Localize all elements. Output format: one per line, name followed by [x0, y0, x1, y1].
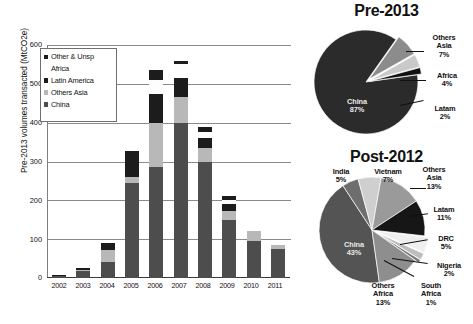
pie-post2012-label-india: India 5% [323, 168, 359, 185]
legend-swatch-icon-others-asia [44, 90, 48, 94]
bar-segment-2002-latin-america [52, 275, 66, 276]
y-tick-0: 0 [38, 274, 42, 282]
bar-segment-2008-china [198, 162, 212, 279]
bar-segment-2011-china [271, 249, 285, 278]
pie-post2012-label-china: China 43% [334, 241, 374, 258]
x-tick-2004: 2004 [94, 281, 120, 290]
legend-swatch-icon-latin-america [44, 78, 48, 82]
legend-label-latin-america: Latin America [51, 76, 94, 85]
legend-item-africa: Africa [44, 64, 114, 74]
bar-segment-2005-china [125, 183, 139, 278]
bar-segment-2010-others-asia [247, 231, 261, 241]
bar-segment-2009-other-unsp [222, 196, 236, 200]
x-tick-2008: 2008 [190, 281, 216, 290]
bar-segment-2007-china [174, 123, 188, 278]
y-tick-100: 100 [30, 236, 42, 244]
bar-segment-2011-others-asia [271, 245, 285, 249]
pie-pre2013-leader-africa [400, 80, 426, 81]
bar-segment-2008-africa [198, 132, 212, 138]
pie-post2012-label-south-africa: South Africa 1% [411, 282, 451, 307]
bar-segment-2010-china [247, 241, 261, 278]
bar-segment-2006-others-asia [149, 123, 163, 168]
bar-segment-2005-latin-america [125, 151, 139, 177]
legend-label-other-unsp: Other & Unsp [51, 52, 94, 61]
pie-pre2013-label-africa: Africa 4% [426, 72, 468, 89]
legend-item-other-unsp: Other & Unsp [44, 52, 114, 62]
bar-segment-2007-africa [174, 64, 188, 78]
x-axis-ticks: 2002 2003 2004 2005 2006 2007 2008 2009 … [47, 281, 290, 295]
bar-segment-2007-others-asia [174, 97, 188, 122]
pie-pre2013-label-others-asia: Others Asia 7% [422, 34, 466, 59]
pie-pre2013-leader-others-asia [406, 51, 424, 52]
pie-post2012-label-vietnam: Vietnam 7% [366, 168, 410, 185]
bar-segment-2004-latin-america [101, 243, 115, 250]
pie-title-post2012: Post-2012 [300, 148, 473, 166]
legend-item-china: China [44, 100, 114, 110]
bar-segment-2005-others-asia [125, 177, 139, 183]
x-tick-2005: 2005 [118, 281, 144, 290]
bar-segment-2008-other-unsp [198, 127, 212, 133]
x-tick-2002: 2002 [46, 281, 72, 290]
bar-segment-2007-other-unsp [174, 61, 188, 65]
y-tick-300: 300 [30, 158, 42, 166]
bar-segment-2009-latin-america [222, 204, 236, 211]
bar-segment-2008-latin-america [198, 138, 212, 148]
legend-swatch-icon-africa [44, 66, 48, 70]
pie-post2012-label-latam: Latam 11% [424, 206, 464, 223]
legend-label-others-asia: Others Asia [51, 88, 88, 97]
pie-title-pre2013: Pre-2013 [300, 2, 473, 20]
pie-chart-post2012-panel: Post-2012 China 43% India 5% Vietnam 7% … [300, 148, 473, 324]
legend-swatch-icon-china [44, 102, 48, 106]
figure-root: Pre-2013 volumes transacted (MtCO2e) 600… [0, 0, 473, 324]
bar-segment-2003-china [76, 271, 90, 278]
bar-segment-2008-others-asia [198, 148, 212, 162]
bar-segment-2003-others-asia [76, 270, 90, 271]
bar-segment-2009-others-asia [222, 211, 236, 220]
legend-item-latin-america: Latin America [44, 76, 114, 86]
bar-segment-2004-others-asia [101, 250, 115, 262]
x-tick-2003: 2003 [70, 281, 96, 290]
x-tick-2007: 2007 [166, 281, 192, 290]
x-tick-2011: 2011 [262, 281, 288, 290]
bar-segment-2006-latin-america [149, 94, 163, 123]
bar-segment-2004-china [101, 262, 115, 278]
pie-chart-pre2013-panel: Pre-2013 China 87% Others Asia 7% Africa… [300, 0, 473, 160]
bar-segment-2002-china [52, 276, 66, 278]
pie-post2012-label-nigeria: Nigeria 2% [428, 262, 470, 279]
legend-label-china: China [51, 100, 70, 109]
bar-segment-2006-africa [149, 80, 163, 94]
x-tick-2006: 2006 [142, 281, 168, 290]
legend-swatch-icon-other-unsp [44, 55, 48, 59]
pie-post2012-label-others-africa: Others Africa 13% [362, 282, 404, 307]
x-tick-2009: 2009 [214, 281, 240, 290]
x-tick-2010: 2010 [238, 281, 264, 290]
legend-label-africa: Africa [51, 64, 69, 73]
bar-segment-2003-latin-america [76, 268, 90, 270]
y-tick-200: 200 [30, 197, 42, 205]
pie-post2012-label-drc: DRC 5% [428, 235, 464, 252]
legend-item-others-asia: Others Asia [44, 88, 114, 98]
pie-pre2013-svg [308, 24, 428, 144]
bar-segment-2006-other-unsp [149, 70, 163, 80]
pie-post2012-leader-others-asia [410, 188, 426, 189]
bar-segment-2007-latin-america [174, 78, 188, 97]
bar-chart-legend: Other & Unsp Africa Latin America Others… [40, 48, 117, 122]
pie-pre2013-label-latam: Latam 2% [424, 105, 466, 122]
bar-segment-2009-africa [222, 200, 236, 204]
bar-segment-2006-china [149, 167, 163, 278]
bar-segment-2009-china [222, 220, 236, 278]
pie-pre2013-label-china: China 87% [336, 98, 378, 115]
bar-chart-panel: Pre-2013 volumes transacted (MtCO2e) 600… [0, 0, 300, 324]
